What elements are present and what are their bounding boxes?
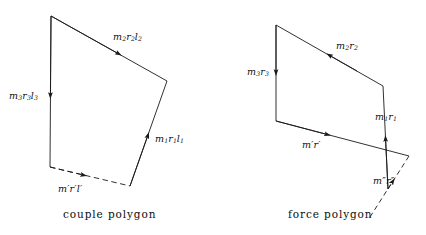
label-couple-mprime: m′r′l′ — [58, 183, 82, 194]
label-m2r2l2-sub3: 2 — [138, 35, 142, 42]
couple-vector-m1r1l1-arrow — [130, 135, 148, 186]
label-m3r3l3-sub3: 3 — [34, 94, 38, 101]
label-m1r1l1: m1r1l1 — [155, 133, 184, 144]
label-force-mprime-text: m′r′ — [302, 139, 321, 150]
label-m3r3: m3r3 — [247, 66, 269, 77]
label-m2r2l2: m2r2l2 — [113, 31, 142, 42]
force-vector-mdprime-arrow — [370, 181, 393, 217]
label-m2r2-m: m — [336, 40, 345, 51]
couple-vector-m3r3l3-arrow — [50, 16, 51, 96]
label-m3r3-sub2: 3 — [265, 70, 269, 77]
label-couple-mprime-text: m′r′l′ — [58, 183, 82, 194]
vector-polygon-figure: m2r2l2 m3r3l3 m1r1l1 m′r′l′ m2r2 m3r3 m1… — [0, 0, 426, 235]
label-m1r1-m: m — [375, 111, 384, 122]
caption-couple-polygon: couple polygon — [63, 208, 156, 220]
label-m2r2-sub2: 2 — [354, 44, 358, 51]
label-m1r1l1-sub3: 1 — [180, 137, 184, 144]
label-m3r3-m: m — [247, 66, 256, 77]
label-m1r1-sub2: 1 — [393, 115, 397, 122]
force-vector-mprime-arrow — [276, 121, 328, 135]
diagram-canvas — [0, 0, 426, 235]
label-m3r3l3: m3r3l3 — [9, 90, 38, 101]
label-m2r2l2-m: m — [113, 31, 122, 42]
couple-vector-m2r2l2-arrow — [51, 16, 119, 54]
label-force-mdprime-text: m″r″ — [373, 175, 394, 186]
label-m1r1: m1r1 — [375, 111, 397, 122]
couple-vector-mprime-arrow — [50, 167, 84, 175]
couple-polygon-group — [50, 16, 167, 186]
label-force-mdprime: m″r″ — [373, 175, 394, 186]
caption-force-polygon: force polygon — [288, 208, 373, 220]
label-m2r2: m2r2 — [336, 40, 358, 51]
force-vector-m2r2-arrow — [329, 55, 357, 71]
label-m1r1l1-m: m — [155, 133, 164, 144]
label-force-mprime: m′r′ — [302, 139, 321, 150]
label-m3r3l3-m: m — [9, 90, 18, 101]
